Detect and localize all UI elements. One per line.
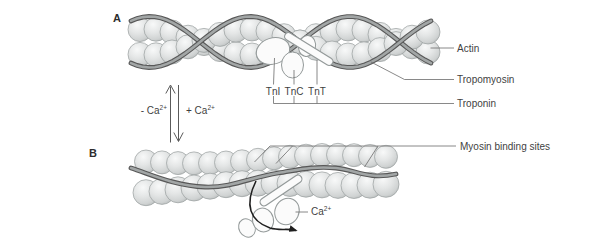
troponin-leader-line xyxy=(274,96,455,104)
tnt-label: TnT xyxy=(308,86,326,97)
actin-monomer xyxy=(375,145,398,168)
calcium-equilibrium-arrows xyxy=(166,85,183,143)
panel-a-label: A xyxy=(113,13,121,24)
bound-calcium-superscript: 2+ xyxy=(324,205,331,212)
bound-calcium-text: Ca xyxy=(311,206,324,217)
plus-calcium-text: + Ca xyxy=(186,105,207,116)
minus-calcium-superscript: 2+ xyxy=(160,104,167,111)
bound-calcium-label: Ca2+ xyxy=(311,206,331,217)
tni-label: TnI xyxy=(266,86,280,97)
tnc-label: TnC xyxy=(285,86,304,97)
figure: A B Actin Tropomyosin Troponin Myosin bi… xyxy=(0,0,600,241)
myosin-binding-sites-label: Myosin binding sites xyxy=(460,141,550,152)
minus-calcium-text: - Ca xyxy=(141,105,160,116)
tropomyosin-leader-line xyxy=(371,62,454,80)
panel-b-label: B xyxy=(89,148,97,159)
troponin-label: Troponin xyxy=(457,98,496,109)
minus-calcium-label: - Ca2+ xyxy=(130,105,167,116)
actin-strand-top-b xyxy=(135,143,398,175)
diagram-canvas xyxy=(0,0,600,241)
plus-calcium-superscript: 2+ xyxy=(207,104,214,111)
troponin-tnc-lobe xyxy=(282,52,304,78)
tropomyosin-label: Tropomyosin xyxy=(457,74,514,85)
plus-calcium-label: + Ca2+ xyxy=(186,105,215,116)
actin-label: Actin xyxy=(457,43,479,54)
